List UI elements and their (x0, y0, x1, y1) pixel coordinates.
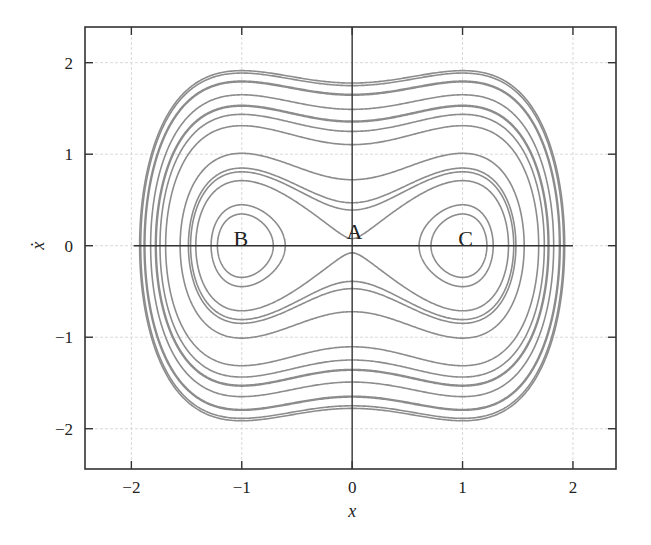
y-axis-label: ẋ (28, 242, 48, 251)
x-tick-label: 0 (348, 478, 357, 497)
plot-frame (85, 27, 616, 469)
x-tick-label: −2 (122, 478, 140, 497)
y-tick-labels: −2−1012 (55, 54, 73, 439)
y-tick-label: −2 (55, 420, 73, 439)
y-tick-label: 0 (65, 237, 74, 256)
y-tick-label: −1 (55, 328, 73, 347)
x-axis-label: x (347, 501, 356, 521)
x-tick-label: −1 (233, 478, 251, 497)
saddle-point-label-a: A (346, 219, 362, 244)
y-tick-label: 2 (65, 54, 74, 73)
center-point-label-b: B (233, 226, 248, 251)
x-tick-label: 1 (458, 478, 467, 497)
x-tick-label: 2 (569, 478, 578, 497)
axis-ticks (85, 27, 616, 469)
phase-portrait-chart: −2−1012 −2−1012 x ẋ A B C (0, 0, 651, 545)
center-point-label-c: C (458, 226, 473, 251)
x-tick-labels: −2−1012 (122, 478, 577, 497)
grid-lines (85, 27, 616, 469)
y-tick-label: 1 (65, 145, 74, 164)
